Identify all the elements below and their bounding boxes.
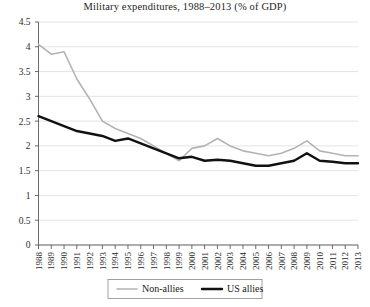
y-tick-label: 1 — [26, 191, 31, 201]
x-axis-tickmarks — [39, 245, 359, 249]
line-chart-plot: 00.511.522.533.544.5 1988198919901991199… — [0, 0, 370, 307]
legend-label-0: Non-allies — [142, 283, 184, 294]
x-tick-label: 1996 — [136, 252, 146, 271]
x-tick-label: 1995 — [123, 252, 133, 271]
x-tick-label: 2009 — [302, 252, 312, 271]
x-tick-label: 2010 — [315, 252, 325, 271]
x-tick-label: 2011 — [328, 252, 338, 270]
y-tick-label: 2.5 — [19, 117, 31, 127]
x-tick-label: 1998 — [162, 252, 172, 271]
legend-label-1: US allies — [227, 283, 263, 294]
y-tick-label: 4.5 — [19, 17, 31, 27]
chart-legend: Non-alliesUS allies — [108, 280, 263, 299]
x-tick-label: 1992 — [85, 252, 95, 270]
y-axis-tickmarks — [35, 22, 39, 245]
x-tick-label: 2003 — [225, 252, 235, 271]
x-tick-label: 2000 — [187, 252, 197, 271]
series-line-us-allies — [39, 116, 359, 166]
x-tick-label: 1989 — [46, 252, 56, 271]
x-tick-label: 1988 — [34, 252, 44, 271]
x-axis-tick-labels: 1988198919901991199219931994199519961997… — [34, 252, 364, 271]
x-tick-label: 2004 — [238, 252, 248, 271]
y-axis-tick-labels: 00.511.522.533.544.5 — [19, 17, 31, 250]
x-tick-label: 1991 — [72, 252, 82, 270]
x-tick-label: 1990 — [59, 252, 69, 271]
y-tick-label: 4 — [26, 42, 31, 52]
x-tick-label: 2008 — [289, 252, 299, 271]
x-tick-label: 1999 — [174, 252, 184, 271]
x-tick-label: 2013 — [353, 252, 363, 271]
x-tick-label: 2005 — [251, 252, 261, 271]
x-tick-label: 1994 — [110, 252, 120, 271]
x-tick-label: 2006 — [264, 252, 274, 271]
chart-figure: Military expenditures, 1988–2013 (% of G… — [0, 0, 370, 307]
x-tick-label: 2001 — [200, 252, 210, 270]
series-line-non-allies — [39, 44, 359, 160]
y-tick-label: 0.5 — [19, 216, 31, 226]
y-tick-label: 1.5 — [19, 166, 31, 176]
x-tick-label: 1997 — [149, 252, 159, 271]
y-tick-label: 0 — [26, 240, 31, 250]
x-tick-label: 2007 — [277, 252, 287, 271]
y-tick-label: 2 — [26, 141, 31, 151]
y-tick-label: 3 — [26, 92, 31, 102]
y-tick-label: 3.5 — [19, 67, 31, 77]
x-tick-label: 2012 — [340, 252, 350, 270]
x-tick-label: 2002 — [213, 252, 223, 270]
series-lines — [39, 44, 359, 165]
x-tick-label: 1993 — [98, 252, 108, 271]
